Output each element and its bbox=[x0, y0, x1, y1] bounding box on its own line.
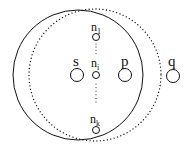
node-p bbox=[119, 69, 132, 82]
node-q bbox=[167, 70, 180, 83]
label-n1: n1 bbox=[91, 20, 101, 36]
diagram-svg: n1 s ni p q nk bbox=[0, 0, 190, 150]
label-nk: nk bbox=[90, 112, 100, 128]
label-s: s bbox=[73, 53, 79, 69]
diagram-canvas: n1 s ni p q nk bbox=[0, 0, 190, 150]
node-ni bbox=[93, 72, 100, 79]
node-s bbox=[71, 69, 84, 82]
label-q: q bbox=[168, 53, 176, 69]
label-ni: ni bbox=[91, 56, 100, 72]
label-p: p bbox=[121, 53, 129, 69]
